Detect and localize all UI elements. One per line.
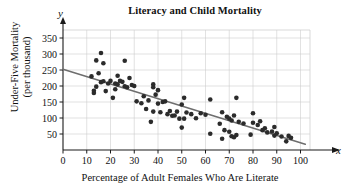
svg-text:10: 10 xyxy=(82,155,92,166)
svg-text:200: 200 xyxy=(42,81,57,92)
chart-figure: Literacy and Child Mortality 01020304050… xyxy=(0,0,354,195)
axis-tick-labels: 0102030405060708090100501001502002503003… xyxy=(42,33,308,167)
svg-text:350: 350 xyxy=(42,33,57,44)
svg-text:90: 90 xyxy=(272,155,282,166)
svg-text:0: 0 xyxy=(61,155,66,166)
svg-text:70: 70 xyxy=(224,155,234,166)
y-axis-variable-label: y xyxy=(57,7,63,19)
svg-text:80: 80 xyxy=(248,155,258,166)
x-axis-variable-label: x xyxy=(335,144,341,156)
svg-text:20: 20 xyxy=(106,155,116,166)
svg-text:40: 40 xyxy=(153,155,163,166)
x-axis-title: Percentage of Adult Females Who Are Lite… xyxy=(30,172,330,183)
svg-text:250: 250 xyxy=(42,65,57,76)
y-axis-title: Under-Five Mortality (per thousand) xyxy=(9,2,33,132)
axis-lines xyxy=(60,17,340,153)
scatter-plot: 0102030405060708090100501001502002503003… xyxy=(0,0,354,195)
svg-text:300: 300 xyxy=(42,49,57,60)
svg-text:150: 150 xyxy=(42,97,57,108)
svg-text:100: 100 xyxy=(293,155,308,166)
svg-text:50: 50 xyxy=(47,129,57,140)
axis-ticks xyxy=(60,38,301,154)
svg-text:50: 50 xyxy=(177,155,187,166)
svg-text:30: 30 xyxy=(129,155,139,166)
svg-text:100: 100 xyxy=(42,113,57,124)
data-points xyxy=(89,51,293,144)
y-axis-title-line-2: (per thousand) xyxy=(21,2,33,132)
y-axis-title-line-1: Under-Five Mortality xyxy=(9,22,20,112)
svg-text:60: 60 xyxy=(201,155,211,166)
